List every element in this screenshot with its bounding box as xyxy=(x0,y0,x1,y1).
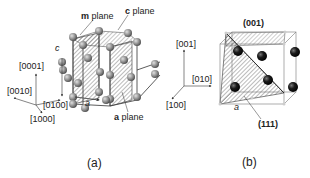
cubic-cell xyxy=(219,31,301,120)
cubic-a-axis-label: a xyxy=(234,103,239,112)
c-plane-label: c plane xyxy=(125,7,155,16)
axis-0100: [0100] xyxy=(43,101,68,110)
caption-a: (a) xyxy=(87,157,102,169)
axis-001: [001] xyxy=(176,40,196,49)
axis-010: [010] xyxy=(192,75,212,84)
hexagonal-cell xyxy=(58,15,160,112)
axis-0001: [0001] xyxy=(19,62,44,71)
plane-111-label: (111) xyxy=(258,120,278,129)
c-axis-label: c xyxy=(55,44,60,53)
a-axis-label: a xyxy=(85,99,90,108)
caption-b: (b) xyxy=(242,156,257,168)
m-plane-label: m plane xyxy=(81,12,114,21)
axis-0010: [0010] xyxy=(7,87,32,96)
a-plane-label: a plane xyxy=(114,113,144,122)
axis-1000: [1000] xyxy=(30,115,55,124)
plane-001-label: (001) xyxy=(243,19,264,28)
axis-100: [100] xyxy=(166,101,186,110)
